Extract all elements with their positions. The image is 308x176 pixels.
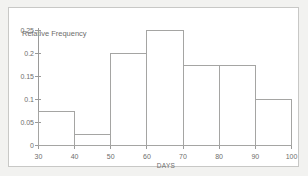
histogram-bar xyxy=(147,31,183,146)
histogram-bar xyxy=(255,100,291,146)
y-tick-label: 0.2 xyxy=(24,50,34,57)
y-tick-label: 0.25 xyxy=(20,27,34,34)
histogram-bar xyxy=(219,65,255,146)
x-tick-label: 50 xyxy=(107,153,115,160)
screenshot-root: Relative Frequency 0 0.05 0.1 0.15 0.2 xyxy=(0,0,308,176)
x-tick-label: 40 xyxy=(71,153,79,160)
x-tick-label: 90 xyxy=(251,153,259,160)
y-axis-tick-labels: 0 0.05 0.1 0.15 0.2 0.25 xyxy=(20,27,34,149)
x-tick-label: 60 xyxy=(143,153,151,160)
histogram-svg: Relative Frequency 0 0.05 0.1 0.15 0.2 xyxy=(0,0,308,176)
x-tick-label: 80 xyxy=(215,153,223,160)
y-tick-label: 0 xyxy=(30,142,34,149)
x-axis-tick-labels: 30 40 50 60 70 80 90 100 xyxy=(35,153,298,160)
y-tick-label: 0.15 xyxy=(20,73,34,80)
x-tick-label: 70 xyxy=(179,153,187,160)
x-tick-label: 30 xyxy=(35,153,43,160)
histogram-chart: Relative Frequency 0 0.05 0.1 0.15 0.2 xyxy=(0,0,308,176)
histogram-bar xyxy=(39,111,75,146)
x-tick-label: 100 xyxy=(286,153,298,160)
x-axis-label: DAYS xyxy=(157,162,176,169)
histogram-bar xyxy=(183,65,219,146)
histogram-bar xyxy=(75,134,111,146)
histogram-bars xyxy=(39,31,292,146)
y-tick-label: 0.05 xyxy=(20,119,34,126)
histogram-bar xyxy=(111,54,147,146)
y-tick-label: 0.1 xyxy=(24,96,34,103)
